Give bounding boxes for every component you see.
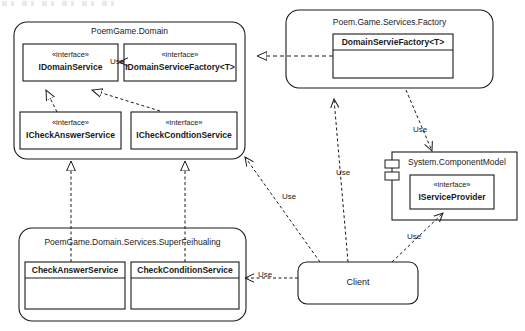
class-name-checkanswerservice: CheckAnswerService — [25, 265, 125, 275]
class-stereotype-idomainservice: «interface» — [23, 50, 118, 59]
class-name-domainserviefactory: DomainServieFactory<T> — [333, 37, 453, 47]
uml-class-diagram: PoemGame.Domain «interface» IDomainServi… — [0, 0, 525, 331]
class-name-icheckcondtionservice: ICheckCondtionService — [129, 130, 239, 140]
edge-use-client-to-icheckcondtion — [245, 157, 320, 262]
edge-realize-icheckanswer-to-idomainservice — [46, 90, 57, 112]
package-title-superfeihualing: PoemGame.Domain.Services.SuperFeihualing — [19, 237, 246, 247]
edge-label-use-client-to-icheckcondtion: Use — [282, 192, 296, 201]
edge-use-client-to-factory-package — [334, 99, 348, 262]
class-stereotype-icheckcondtionservice: «interface» — [131, 118, 237, 127]
edge-label-use-client-to-factory-package: Use — [336, 168, 350, 177]
package-title-factory: Poem.Game.Services.Factory — [286, 17, 493, 27]
class-name-iserviceprovider: IServiceProvider — [410, 192, 494, 202]
edge-label-use-factory-to-componentmodel: Use — [413, 125, 427, 134]
class-name-checkconditionservice: CheckConditionService — [131, 265, 239, 275]
package-title-poemgame-domain: PoemGame.Domain — [14, 26, 245, 36]
class-stereotype-idomainservicefactory: «interface» — [124, 50, 236, 59]
node-label-client: Client — [298, 277, 418, 287]
edge-use-factory-to-componentmodel — [406, 90, 432, 151]
edge-label-use-factory-to-domainservice: Use — [110, 57, 124, 66]
class-name-icheckanswerservice: ICheckAnswerService — [20, 130, 121, 140]
edge-label-use-client-to-iserviceprovider: Use — [407, 232, 421, 241]
component-tab-upper-icon — [385, 160, 399, 168]
edge-label-use-client-to-checkconditionservice: Use — [258, 270, 272, 279]
class-name-idomainservice: IDomainService — [23, 62, 118, 72]
class-name-idomainservicefactory: IDomainServiceFactory<T> — [122, 62, 238, 72]
edge-realize-icheckcondtion-to-idomainservice — [92, 90, 160, 111]
class-stereotype-iserviceprovider: «interface» — [410, 180, 494, 189]
component-tab-lower-icon — [385, 172, 399, 180]
component-title-system-componentmodel: System.ComponentModel — [402, 157, 512, 167]
class-stereotype-icheckanswerservice: «interface» — [20, 118, 121, 127]
